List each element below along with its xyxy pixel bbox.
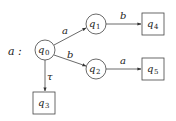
svg-text:q: q: [38, 44, 44, 55]
node-q1: q 1: [86, 14, 106, 34]
edge-label-tau: τ: [47, 71, 53, 82]
node-q4: q 4: [142, 13, 164, 35]
edge-label-a: a: [62, 25, 68, 36]
node-q0: q 0: [35, 40, 55, 60]
edge-label-b: b: [67, 49, 73, 60]
node-q2: q 2: [86, 59, 106, 79]
edge-q0-q1: a: [54, 25, 86, 45]
lts-diagram: a : a b τ b a q 0 q 1 q 2 q 3: [0, 0, 176, 121]
svg-text:q: q: [89, 18, 95, 29]
svg-text:0: 0: [45, 49, 49, 57]
svg-text:q: q: [147, 18, 153, 29]
svg-text:3: 3: [45, 102, 49, 110]
edge-q2-q5: a: [106, 55, 141, 69]
node-q3: q 3: [33, 92, 55, 114]
edge-q0-q3: τ: [45, 60, 53, 91]
svg-text:1: 1: [96, 23, 100, 31]
svg-text:q: q: [89, 63, 95, 74]
svg-text:2: 2: [96, 68, 100, 76]
node-q5: q 5: [142, 58, 164, 80]
edge-label-b: b: [120, 10, 126, 21]
edge-q1-q4: b: [106, 10, 141, 24]
edge-q0-q2: b: [54, 49, 86, 66]
svg-text:q: q: [147, 63, 153, 74]
svg-text:q: q: [38, 97, 44, 108]
svg-text:4: 4: [154, 23, 159, 31]
process-label: a :: [8, 45, 22, 58]
svg-text:5: 5: [154, 68, 158, 76]
edge-label-a: a: [120, 55, 126, 66]
